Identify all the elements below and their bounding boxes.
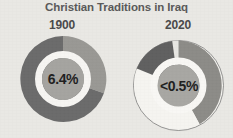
chart-figure: Christian Traditions in Iraq 1900 2020 6… bbox=[0, 0, 233, 138]
panel-year-label-2020: 2020 bbox=[138, 18, 218, 32]
panel-year-label-1900: 1900 bbox=[22, 18, 102, 32]
donut-center-value-2020: <0.5% bbox=[134, 78, 224, 94]
chart-title: Christian Traditions in Iraq bbox=[0, 1, 233, 13]
donut-center-value-1900: 6.4% bbox=[20, 71, 106, 87]
